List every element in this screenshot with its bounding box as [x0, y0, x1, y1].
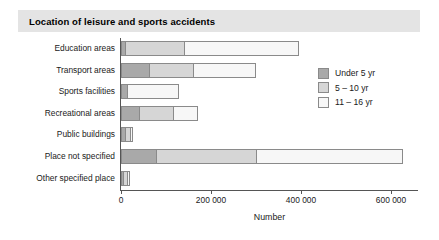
bar-segment[interactable]: [121, 149, 157, 164]
legend-label: 5 – 10 yr: [335, 83, 368, 93]
x-tick-mark: [301, 190, 302, 194]
bar-row: [121, 146, 418, 168]
stacked-bar[interactable]: [121, 63, 256, 78]
bar-segment[interactable]: [173, 106, 198, 121]
legend-item[interactable]: Under 5 yr: [318, 66, 428, 81]
legend-label: 11 – 16 yr: [335, 97, 373, 107]
bar-segment[interactable]: [127, 171, 130, 186]
category-label: Place not specified: [0, 146, 115, 168]
chart-legend: Under 5 yr5 – 10 yr11 – 16 yr: [318, 66, 428, 110]
x-tick-label: 200 000: [196, 195, 226, 205]
bar-segment[interactable]: [121, 106, 140, 121]
bar-segment[interactable]: [149, 63, 194, 78]
legend-label: Under 5 yr: [335, 68, 375, 78]
bar-segment[interactable]: [127, 84, 179, 99]
category-label: Recreational areas: [0, 103, 115, 125]
y-axis-category-labels: Education areasTransport areasSports fac…: [0, 38, 115, 190]
plot-area: 0200 000400 000600 000 Number: [121, 38, 418, 190]
x-tick-label: 600 000: [376, 195, 406, 205]
bar-segment[interactable]: [256, 149, 402, 164]
bar-segment[interactable]: [130, 127, 133, 142]
stacked-bar[interactable]: [121, 41, 299, 56]
bar-segment[interactable]: [184, 41, 299, 56]
x-tick-label: 400 000: [286, 195, 316, 205]
chart-title: Location of leisure and sports accidents: [18, 16, 215, 27]
legend-swatch-icon: [318, 68, 329, 79]
category-label: Transport areas: [0, 60, 115, 82]
category-label: Public buildings: [0, 124, 115, 146]
x-tick-mark: [391, 190, 392, 194]
x-axis-title: Number: [121, 212, 418, 222]
x-tick-mark: [121, 190, 122, 194]
stacked-bar[interactable]: [121, 149, 403, 164]
legend-swatch-icon: [318, 82, 329, 93]
bar-row: [121, 124, 418, 146]
bar-segment[interactable]: [193, 63, 256, 78]
bar-row: [121, 38, 418, 60]
chart-container: Education areasTransport areasSports fac…: [0, 38, 439, 240]
bar-segment[interactable]: [139, 106, 174, 121]
category-label: Education areas: [0, 38, 115, 60]
category-label: Sports facilities: [0, 81, 115, 103]
stacked-bar[interactable]: [121, 106, 198, 121]
stacked-bar[interactable]: [121, 84, 179, 99]
x-tick-mark: [211, 190, 212, 194]
legend-item[interactable]: 5 – 10 yr: [318, 81, 428, 96]
bar-row: [121, 168, 418, 190]
chart-title-bar: Location of leisure and sports accidents: [18, 10, 420, 32]
stacked-bar[interactable]: [121, 171, 130, 186]
x-axis-line: [120, 190, 418, 191]
bar-segment[interactable]: [121, 63, 150, 78]
legend-item[interactable]: 11 – 16 yr: [318, 95, 428, 110]
x-tick-label: 0: [119, 195, 124, 205]
bar-segment[interactable]: [125, 41, 186, 56]
bar-segment[interactable]: [156, 149, 257, 164]
category-label: Other specified place: [0, 168, 115, 190]
legend-swatch-icon: [318, 97, 329, 108]
stacked-bar[interactable]: [121, 127, 133, 142]
